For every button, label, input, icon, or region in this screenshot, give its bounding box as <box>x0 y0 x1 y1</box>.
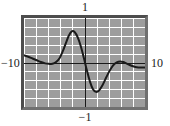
plot-area <box>24 18 145 107</box>
y-axis-max-label: 1 <box>0 1 170 13</box>
y-axis-min-label: −1 <box>0 111 170 123</box>
plot-svg <box>24 18 145 107</box>
x-axis-max-label: 10 <box>151 57 163 69</box>
data-curve <box>24 31 145 92</box>
figure-viewport: 1 −10 10 −1 <box>0 0 170 126</box>
plot-frame <box>21 15 148 110</box>
x-axis-min-label: −10 <box>1 57 20 69</box>
